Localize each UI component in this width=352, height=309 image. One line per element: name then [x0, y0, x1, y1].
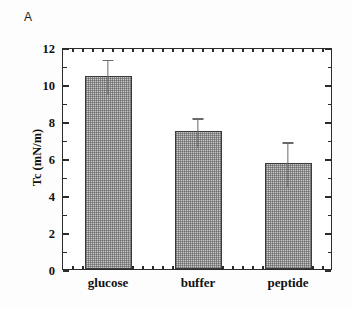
x-tick-top — [112, 49, 113, 52]
x-tick-top — [292, 49, 293, 52]
y-tick-right — [325, 122, 331, 123]
y-tick-right — [325, 270, 331, 271]
x-tick-top — [242, 49, 243, 52]
y-tick-right — [328, 178, 332, 179]
y-tick-left — [63, 104, 67, 105]
x-tick-bottom — [322, 266, 323, 269]
x-tick-bottom — [172, 266, 173, 269]
y-tick-label: 6 — [21, 153, 55, 168]
y-tick-left — [63, 270, 69, 271]
x-tick-top — [92, 49, 93, 52]
y-tick-right — [328, 67, 332, 68]
x-tick-top — [262, 49, 263, 52]
x-tick-bottom — [82, 266, 83, 269]
x-tick-bottom — [242, 266, 243, 269]
x-tick-bottom — [162, 266, 163, 269]
x-tick-top — [302, 49, 303, 52]
y-tick-label: 8 — [21, 116, 55, 131]
x-tick-top — [202, 49, 203, 52]
x-tick-bottom — [262, 266, 263, 269]
error-bar-line — [107, 60, 108, 95]
y-tick-right — [325, 85, 331, 86]
x-tick-top — [132, 49, 133, 52]
x-tick-bottom — [252, 266, 253, 269]
y-tick-label: 12 — [21, 42, 55, 57]
x-tick-top — [272, 49, 273, 52]
error-bar-cap-upper — [103, 60, 114, 61]
y-tick-left — [63, 178, 67, 179]
x-tick-top — [212, 49, 213, 52]
error-bar-cap-upper — [193, 118, 204, 119]
error-bar-line — [287, 142, 288, 186]
x-tick-label-peptide: peptide — [267, 275, 308, 291]
x-tick-top — [192, 49, 193, 52]
y-tick-label: 4 — [21, 190, 55, 205]
x-tick-bottom — [142, 266, 143, 269]
bar-glucose — [85, 76, 132, 269]
x-tick-bottom — [72, 266, 73, 269]
y-tick-label: 0 — [21, 264, 55, 279]
x-tick-top — [252, 49, 253, 52]
error-bar-buffer — [190, 118, 206, 148]
x-tick-bottom — [132, 266, 133, 269]
bar-buffer — [175, 131, 222, 269]
error-bar-cap-upper — [283, 142, 294, 143]
y-tick-left — [63, 67, 67, 68]
x-tick-top — [232, 49, 233, 52]
y-tick-left — [63, 85, 69, 86]
y-tick-left — [63, 141, 67, 142]
x-tick-top — [102, 49, 103, 52]
panel-label: A — [24, 10, 33, 24]
x-tick-top — [82, 49, 83, 52]
x-tick-top — [222, 49, 223, 52]
y-tick-label: 2 — [21, 227, 55, 242]
x-tick-top — [122, 49, 123, 52]
x-tick-top — [282, 49, 283, 52]
x-tick-bottom — [152, 266, 153, 269]
x-tick-top — [152, 49, 153, 52]
x-tick-bottom — [312, 266, 313, 269]
y-tick-right — [325, 233, 331, 234]
plot-area: 024681012glucosebufferpeptide — [62, 48, 332, 270]
y-tick-right — [325, 48, 331, 49]
y-tick-label: 10 — [21, 79, 55, 94]
x-tick-top — [312, 49, 313, 52]
y-tick-right — [328, 141, 332, 142]
y-tick-left — [63, 215, 67, 216]
x-tick-label-buffer: buffer — [181, 275, 216, 291]
x-tick-top — [322, 49, 323, 52]
y-tick-right — [328, 252, 332, 253]
y-tick-left — [63, 122, 69, 123]
x-tick-top — [162, 49, 163, 52]
x-tick-bottom — [232, 266, 233, 269]
x-tick-label-glucose: glucose — [88, 275, 128, 291]
x-tick-bottom — [222, 266, 223, 269]
error-bar-peptide — [280, 142, 296, 186]
y-tick-right — [325, 159, 331, 160]
y-tick-left — [63, 159, 69, 160]
y-tick-left — [63, 252, 67, 253]
figure-panel-a: A Tc (mN/m) 024681012glucosebufferpeptid… — [0, 0, 352, 309]
x-tick-top — [72, 49, 73, 52]
x-tick-top — [142, 49, 143, 52]
error-bar-line — [197, 118, 198, 148]
y-tick-right — [328, 215, 332, 216]
y-tick-left — [63, 48, 69, 49]
y-tick-right — [328, 104, 332, 105]
y-tick-left — [63, 233, 69, 234]
x-tick-top — [182, 49, 183, 52]
error-bar-glucose — [100, 60, 116, 95]
y-tick-right — [325, 196, 331, 197]
x-tick-top — [172, 49, 173, 52]
y-tick-left — [63, 196, 69, 197]
